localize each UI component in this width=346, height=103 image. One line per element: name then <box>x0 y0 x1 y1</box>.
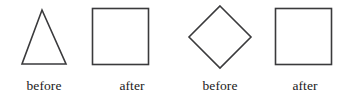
figure-caption: before <box>0 76 88 95</box>
figure-item-square-after-1: after <box>88 0 176 103</box>
figure-item-square-after-2: after <box>264 0 346 103</box>
figure-canvas: before after before after <box>0 0 346 103</box>
shape-slot <box>88 0 176 72</box>
shape-slot <box>176 0 264 72</box>
shape-slot <box>0 0 88 72</box>
shape-slot <box>264 0 346 72</box>
figure-item-triangle-before: before <box>0 0 88 103</box>
square-outline-icon <box>264 0 346 72</box>
triangle-outline-icon <box>0 0 88 72</box>
diamond-outline-icon <box>176 0 264 72</box>
figure-item-diamond-before: before <box>176 0 264 103</box>
figure-caption: after <box>88 76 176 95</box>
figure-caption: after <box>264 76 346 95</box>
square-outline-icon <box>88 0 176 72</box>
figure-caption: before <box>176 76 264 95</box>
